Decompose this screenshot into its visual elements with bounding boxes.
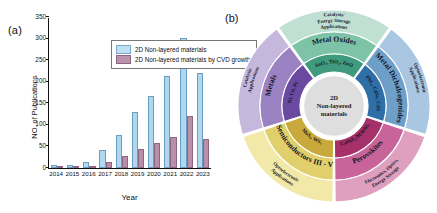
bar-2d-non-layered-materials-by-cvd-growth bbox=[73, 166, 79, 168]
panel-b-wheel-diagram: (b) Metal OxidesSnO₂, TiO₂, ZnOCatalysis… bbox=[216, 0, 437, 213]
x-tick-label: 2020 bbox=[147, 170, 161, 177]
x-tick-label: 2023 bbox=[196, 170, 210, 177]
bar-2d-non-layered-materials-by-cvd-growth bbox=[89, 166, 95, 168]
y-tick-label: 350 bbox=[35, 14, 49, 20]
bar-2d-non-layered-materials-by-cvd-growth bbox=[170, 137, 176, 168]
y-tick-label: 100 bbox=[35, 122, 49, 128]
legend-swatch-series-1 bbox=[116, 55, 131, 64]
y-tick-label: 300 bbox=[35, 35, 49, 41]
y-tick-label: 150 bbox=[35, 100, 49, 106]
x-axis-ticks: 2014201520162017201820192020202120222023 bbox=[48, 170, 211, 177]
bar-2d-non-layered-materials-by-cvd-growth bbox=[57, 166, 63, 168]
panel-a-bar-chart: (a) NO. of Publications 0501001502002503… bbox=[0, 0, 222, 213]
y-tick-label: 200 bbox=[35, 79, 49, 85]
legend-swatch-series-0 bbox=[116, 45, 131, 54]
bar-2d-non-layered-materials-by-cvd-growth bbox=[154, 143, 160, 168]
y-tick-label: 250 bbox=[35, 57, 49, 63]
bar-2d-non-layered-materials-by-cvd-growth bbox=[203, 139, 209, 168]
bar-2d-non-layered-materials-by-cvd-growth bbox=[122, 156, 128, 168]
panel-a-label: (a) bbox=[8, 24, 22, 36]
y-tick-label: 50 bbox=[39, 143, 49, 149]
sector-applications-metal-oxides: Catalysis/ bbox=[323, 12, 345, 18]
legend-label-series-0: 2D Non-layered materials bbox=[135, 46, 206, 53]
wheel-center-line-2: Non-layered bbox=[304, 102, 364, 110]
wheel-center-line-3: materials bbox=[304, 110, 364, 118]
x-tick-label: 2018 bbox=[114, 170, 128, 177]
wheel-chart: Metal OxidesSnO₂, TiO₂, ZnOCatalysis/Ene… bbox=[234, 6, 434, 206]
x-tick-label: 2016 bbox=[82, 170, 96, 177]
bar-2d-non-layered-materials-by-cvd-growth bbox=[138, 149, 144, 168]
x-tick-label: 2021 bbox=[163, 170, 177, 177]
x-tick-label: 2015 bbox=[65, 170, 79, 177]
bar-group bbox=[82, 18, 96, 168]
bar-2d-non-layered-materials-by-cvd-growth bbox=[187, 116, 193, 168]
bar-group bbox=[66, 18, 80, 168]
x-tick-label: 2017 bbox=[98, 170, 112, 177]
x-tick-label: 2014 bbox=[49, 170, 63, 177]
figure-root: (a) NO. of Publications 0501001502002503… bbox=[0, 0, 437, 213]
wheel-center-line-1: 2D bbox=[304, 94, 364, 102]
plot-area: 050100150200250300350 2D Non-layered mat… bbox=[48, 18, 211, 169]
x-axis-label: Year bbox=[48, 193, 211, 202]
bar-2d-non-layered-materials-by-cvd-growth bbox=[106, 162, 112, 168]
bar-group bbox=[50, 18, 64, 168]
x-tick-label: 2022 bbox=[180, 170, 194, 177]
x-tick-label: 2019 bbox=[131, 170, 145, 177]
wheel-center-label: 2D Non-layered materials bbox=[304, 94, 364, 119]
y-tick-mark bbox=[46, 16, 49, 17]
